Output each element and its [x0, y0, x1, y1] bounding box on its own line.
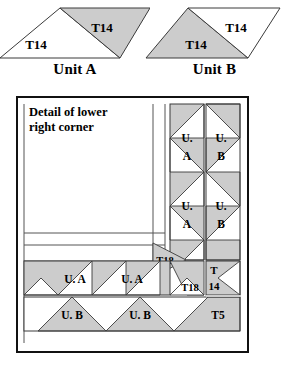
unit-a-swatch: T14 T14	[0, 4, 150, 60]
unit-a-row-cell-1: U. A	[64, 273, 86, 285]
unit-a-column: U. A U. A	[170, 104, 204, 260]
unit-b-column: U. B U. B	[206, 104, 240, 260]
unit-a-column-cell-2-line1: U.	[181, 200, 192, 212]
unit-a-column-cell-1-line1: U.	[181, 132, 192, 144]
unit-b-shape: T14 T14	[140, 4, 289, 60]
unit-a-row: U. A U. A	[24, 261, 170, 295]
t18-lower-label: T18	[181, 282, 199, 293]
unit-b-column-cell-2-line1: U.	[215, 200, 226, 212]
unit-b-light-label: T14	[225, 20, 247, 35]
unit-b-swatch: T14 T14	[140, 4, 289, 60]
t5-join-strip	[206, 295, 240, 297]
detail-corner-diagram: U. A U. A U. B U. B	[18, 98, 247, 351]
detail-panel-title: Detail of lower right corner	[29, 105, 159, 135]
quilt-diagram-figure: T14 T14 Unit A T14 T14 Unit B	[0, 0, 289, 367]
unit-a-column-cell-2-line2: A	[183, 218, 192, 230]
unit-a-row-cell-2: U. A	[121, 273, 143, 285]
detail-panel: U. A U. A U. B U. B	[16, 96, 249, 353]
t14-label-line2: 14	[209, 280, 221, 292]
unit-b-row-cell-1: U. B	[61, 309, 83, 321]
unit-b-caption: Unit B	[140, 61, 289, 78]
unit-b-column-cell-1-line2: B	[217, 150, 225, 162]
unit-a-shape: T14 T14	[0, 4, 150, 60]
unit-a-shaded-label: T14	[91, 20, 113, 35]
unit-b-row-cell-2: U. B	[129, 309, 151, 321]
corner-t14-group: T 14	[206, 261, 240, 295]
unit-b-row: U. B U. B T5	[24, 297, 240, 331]
unit-b-column-cell-2-line2: B	[217, 218, 225, 230]
unit-b-col-shaded-4	[206, 240, 240, 260]
unit-a-light-label: T14	[25, 37, 47, 52]
unit-b-column-cell-1-line1: U.	[215, 132, 226, 144]
t14-label-line1: T	[210, 264, 218, 276]
t5-label: T5	[211, 309, 225, 321]
unit-a-caption: Unit A	[0, 61, 150, 78]
unit-a-column-cell-1-line2: A	[183, 150, 192, 162]
unit-b-shaded-label: T14	[185, 37, 207, 52]
